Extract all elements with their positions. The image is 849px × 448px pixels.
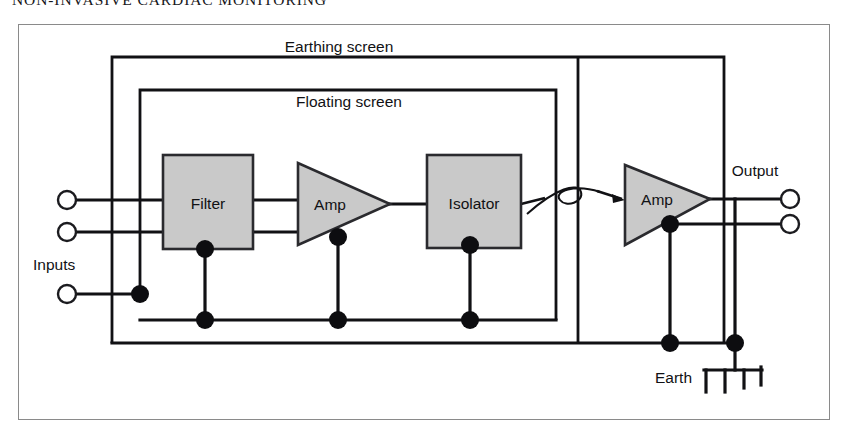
- block-amp-right[interactable]: Amp: [625, 165, 710, 245]
- input-terminal-3[interactable]: [58, 285, 76, 303]
- isolation-gap-symbol: [527, 187, 625, 214]
- junction-isolator-bottom: [461, 236, 479, 254]
- input-terminal-1[interactable]: [58, 191, 76, 209]
- earthing-screen-label: Earthing screen: [285, 38, 394, 55]
- input-terminals[interactable]: [58, 191, 76, 303]
- inputs-label: Inputs: [33, 256, 75, 273]
- junction-amp-left-rail: [329, 311, 347, 329]
- block-filter[interactable]: Filter: [163, 155, 253, 249]
- output-terminal-1[interactable]: [781, 190, 799, 208]
- earth-symbol: [704, 367, 762, 392]
- junction-amp-right-earth: [661, 334, 679, 352]
- block-diagram: Earthing screen Floating screen: [0, 0, 849, 448]
- floating-screen-label: Floating screen: [296, 93, 402, 110]
- junction-amp-right-bottom: [661, 215, 679, 233]
- output-terminals[interactable]: [781, 190, 799, 233]
- junction-amp-left-bottom: [329, 228, 347, 246]
- junction-filter-rail: [196, 311, 214, 329]
- isolator-label: Isolator: [449, 195, 500, 212]
- output-label: Output: [732, 162, 779, 179]
- block-isolator[interactable]: Isolator: [427, 155, 521, 248]
- amp-right-label: Amp: [641, 191, 673, 208]
- input-terminal-2[interactable]: [58, 223, 76, 241]
- filter-label: Filter: [191, 195, 225, 212]
- junction-isolator-rail: [461, 311, 479, 329]
- junction-input-reference: [131, 285, 149, 303]
- earth-label: Earth: [655, 369, 692, 386]
- amp-left-label: Amp: [314, 196, 346, 213]
- junction-filter-bottom: [196, 240, 214, 258]
- isolation-arrow-head: [612, 194, 625, 203]
- output-terminal-2[interactable]: [781, 215, 799, 233]
- junction-output-earth: [726, 334, 744, 352]
